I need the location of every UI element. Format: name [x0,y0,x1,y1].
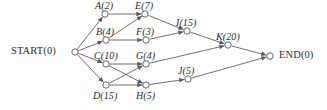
node-label-g: G(4) [136,51,155,61]
node-circle-start[interactable] [72,49,78,55]
node-label-k: K(20) [216,32,240,42]
edge-a-to-e [109,12,142,17]
node-circle-g[interactable] [143,61,149,67]
node-label-end: END(0) [279,50,313,61]
node-circle-a[interactable] [102,11,108,17]
arrow-head-icon [136,12,141,17]
node-label-i: I(15) [176,18,197,28]
node-label-c: C(10) [94,51,118,61]
arrow-head-icon [98,17,103,22]
arrow-head-icon [178,31,183,35]
node-circle-j[interactable] [185,76,191,82]
node-label-d: D(15) [93,91,117,101]
arrow-head-icon [137,38,142,43]
node-circle-b[interactable] [103,37,109,43]
edge-c-to-g [110,62,143,67]
edge-k-to-end [232,46,267,56]
edge-h-to-j [150,78,185,85]
arrow-head-icon [137,62,142,67]
node-circle-k[interactable] [225,42,231,48]
node-circle-f[interactable] [143,37,149,43]
arrow-head-icon [261,52,266,56]
node-label-b: B(4) [96,27,114,37]
node-circle-i[interactable] [184,28,190,34]
activity-network-diagram: START(0)A(2)E(7)B(4)F(3)I(15)C(10)G(4)K(… [0,0,327,110]
node-label-j: J(5) [178,66,195,76]
node-label-start: START(0) [11,46,56,57]
node-label-e: E(7) [135,1,153,11]
edge-b-to-f [110,38,143,43]
node-circle-e[interactable] [142,11,148,17]
node-circle-end[interactable] [267,53,273,59]
edge-d-to-h [110,83,143,88]
node-circle-d[interactable] [103,82,109,88]
node-label-h: H(5) [136,91,155,101]
node-circle-h[interactable] [143,82,149,88]
node-circle-c[interactable] [103,61,109,67]
node-label-a: A(2) [95,1,113,11]
edge-f-to-i [150,31,184,40]
node-label-f: F(3) [136,27,154,37]
edge-j-to-end [192,56,267,78]
arrow-head-icon [137,83,142,88]
arrow-head-icon [219,45,224,49]
edge-g-to-k [150,45,225,63]
arrow-head-icon [136,16,141,21]
arrow-head-icon [179,78,184,83]
